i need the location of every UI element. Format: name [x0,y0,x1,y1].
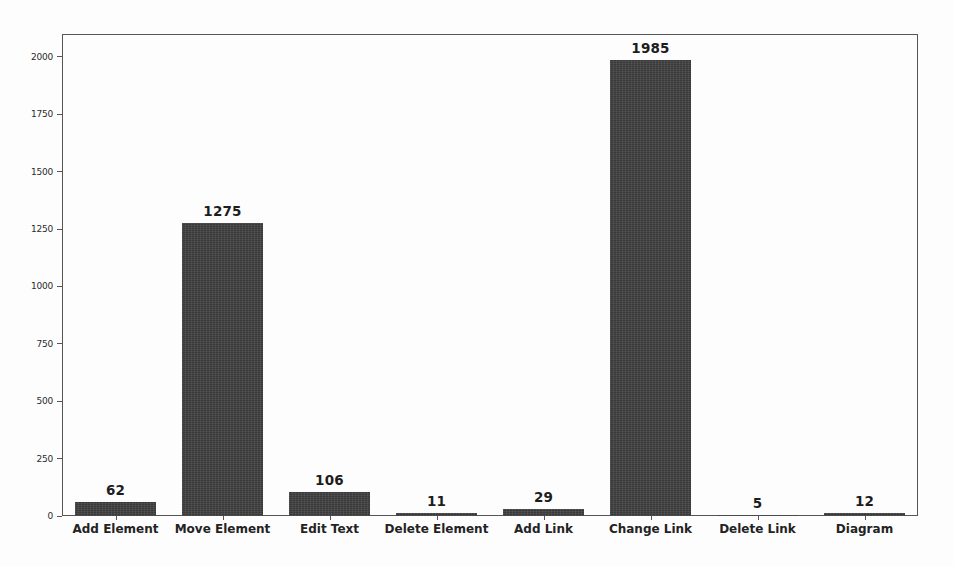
x-axis-tick-label: Edit Text [276,522,383,536]
x-axis-tick-label: Delete Element [383,522,490,536]
y-axis-tick: 1000 [0,279,62,293]
y-axis: 025050075010001250150017502000 [0,34,62,516]
bar-chart-figure: 025050075010001250150017502000 621275106… [0,0,953,566]
bar[interactable] [503,509,585,516]
y-axis-tick: 750 [0,337,62,351]
y-axis-tick: 0 [0,509,62,523]
bar-value-label: 1275 [182,203,264,219]
bar-group: 29 [503,34,585,516]
x-axis-tick-mark [544,516,545,520]
x-axis-tick-mark [865,516,866,520]
bar-group: 5 [717,34,799,516]
y-axis-tick-label: 1750 [31,107,53,121]
y-axis-tick-label: 1250 [31,222,53,236]
bar[interactable] [289,492,371,516]
bar-value-label: 11 [396,493,478,509]
bar-group: 12 [824,34,906,516]
y-axis-tick: 1250 [0,222,62,236]
y-axis-tick: 500 [0,394,62,408]
y-axis-tick: 2000 [0,50,62,64]
bar-group: 1275 [182,34,264,516]
bar[interactable] [182,223,264,516]
bar-value-label: 29 [503,489,585,505]
y-axis-tick-label: 1000 [31,279,53,293]
bar-group: 106 [289,34,371,516]
plot-area: 62127510611291985512 [62,34,918,516]
y-axis-tick: 1750 [0,107,62,121]
bar-value-label: 5 [717,495,799,511]
y-axis-tick: 250 [0,452,62,466]
bar-value-label: 106 [289,472,371,488]
y-axis-tick-label: 750 [36,337,53,351]
bar[interactable] [610,60,692,516]
y-axis-tick-label: 250 [36,452,53,466]
bar-value-label: 62 [75,482,157,498]
y-axis-tick-label: 2000 [31,50,53,64]
x-axis-tick-mark [758,516,759,520]
bar-group: 11 [396,34,478,516]
bar-value-label: 12 [824,493,906,509]
x-axis-tick-mark [651,516,652,520]
x-axis: Add ElementMove ElementEdit TextDelete E… [62,516,918,556]
bar-group: 1985 [610,34,692,516]
y-axis-tick: 1500 [0,165,62,179]
x-axis-tick-label: Diagram [811,522,918,536]
x-axis-tick-mark [223,516,224,520]
x-axis-tick-label: Move Element [169,522,276,536]
x-axis-tick-label: Change Link [597,522,704,536]
x-axis-tick-label: Delete Link [704,522,811,536]
x-axis-tick-label: Add Element [62,522,169,536]
bar-value-label: 1985 [610,40,692,56]
y-axis-tick-label: 1500 [31,165,53,179]
bar-group: 62 [75,34,157,516]
x-axis-tick-mark [437,516,438,520]
y-axis-tick-label: 500 [36,394,53,408]
bar[interactable] [75,502,157,516]
x-axis-tick-mark [116,516,117,520]
x-axis-tick-mark [330,516,331,520]
x-axis-tick-label: Add Link [490,522,597,536]
y-axis-tick-label: 0 [47,509,53,523]
